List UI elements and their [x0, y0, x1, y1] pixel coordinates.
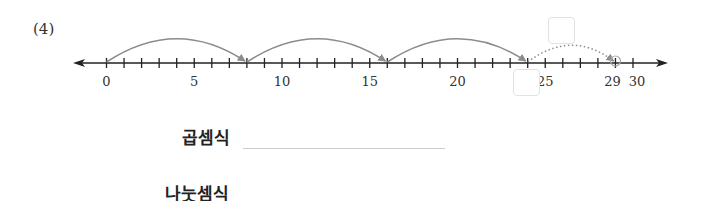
multiplication-answer-line[interactable] — [243, 148, 445, 149]
svg-text:20: 20 — [449, 74, 466, 89]
multiplication-label: 곱셈식 — [182, 124, 230, 149]
svg-text:10: 10 — [274, 74, 291, 89]
division-label: 나눗셈식 — [165, 180, 229, 201]
svg-text:15: 15 — [361, 74, 378, 89]
svg-text:5: 5 — [190, 74, 198, 89]
remainder-answer-box[interactable] — [548, 17, 575, 44]
number-line: 05101520252930 — [0, 0, 703, 110]
svg-text:29: 29 — [604, 74, 621, 89]
svg-text:0: 0 — [102, 74, 110, 89]
svg-text:30: 30 — [629, 74, 646, 89]
position-answer-box[interactable] — [513, 69, 540, 96]
